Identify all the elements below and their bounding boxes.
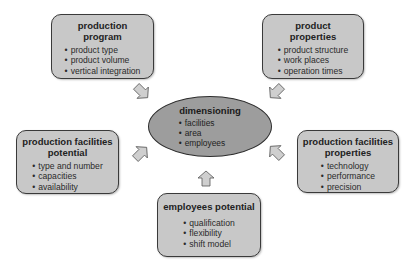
box-item-list: technology performance precision [321, 161, 375, 192]
box-title: product properties [263, 20, 363, 42]
list-item: flexibility [183, 228, 234, 238]
list-item: type and number [32, 161, 103, 171]
list-item: qualification [183, 218, 234, 228]
box-product-properties: product properties product structure wor… [262, 14, 364, 79]
box-title: production facilities potential [17, 136, 118, 158]
center-title: dimensioning [149, 105, 271, 116]
box-item-list: type and number capacities availability [32, 161, 103, 192]
arrow-icon [263, 79, 288, 104]
list-item: capacities [32, 171, 103, 181]
box-title-line: properties [298, 147, 398, 158]
box-production-program: production program product type product … [51, 14, 154, 79]
arrow-icon [129, 79, 154, 104]
list-item: product volume [65, 55, 141, 65]
box-title: production program [52, 20, 153, 42]
list-item: precision [321, 182, 375, 192]
list-item: shift model [183, 239, 234, 249]
list-item: work places [278, 55, 349, 65]
list-item: employees [179, 138, 225, 148]
list-item: technology [321, 161, 375, 171]
list-item: product structure [278, 45, 349, 55]
list-item: product type [65, 45, 141, 55]
list-item: operation times [278, 66, 349, 76]
arrow-icon [197, 170, 215, 188]
box-title: employees potential [158, 201, 260, 212]
box-title-line: potential [17, 147, 118, 158]
box-item-list: product structure work places operation … [278, 45, 349, 76]
box-item-list: qualification flexibility shift model [183, 218, 234, 249]
box-title-line: production [52, 20, 153, 31]
list-item: performance [321, 171, 375, 181]
box-title-line: employees potential [158, 201, 260, 212]
box-production-facilities-properties: production facilities properties technol… [297, 130, 399, 193]
box-production-facilities-potential: production facilities potential type and… [16, 130, 119, 194]
list-item: availability [32, 182, 103, 192]
box-title-line: properties [263, 31, 363, 42]
box-title-line: program [52, 31, 153, 42]
list-item: vertical integration [65, 66, 141, 76]
list-item: facilities [179, 118, 225, 128]
box-title-line: production facilities [17, 136, 118, 147]
center-dimensioning: dimensioning facilities area employees [148, 96, 272, 157]
list-item: area [179, 128, 225, 138]
box-title: production facilities properties [298, 136, 398, 158]
center-item-list: facilities area employees [179, 118, 225, 148]
box-title-line: production facilities [298, 136, 398, 147]
box-employees-potential: employees potential qualification flexib… [157, 193, 261, 257]
box-item-list: product type product volume vertical int… [65, 45, 141, 76]
box-title-line: product [263, 20, 363, 31]
